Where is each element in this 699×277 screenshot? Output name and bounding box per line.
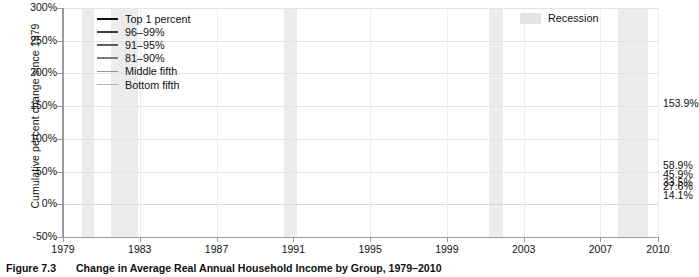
vertical-gridline: [217, 8, 218, 237]
vertical-gridline: [600, 8, 601, 237]
legend-label: 96–99%: [125, 26, 165, 38]
legend-item: 91–95%: [97, 38, 190, 51]
legend-label: Middle fifth: [125, 65, 177, 77]
x-axis-tick-label: 2007: [577, 243, 623, 255]
figure-caption: Figure 7.3 Change in Average Real Annual…: [6, 262, 676, 274]
vertical-gridline: [447, 8, 448, 237]
x-axis-tick: [600, 237, 601, 242]
x-axis-tick: [293, 237, 294, 242]
y-axis-tick-label: -50%: [1, 230, 57, 242]
y-axis-tick-label: 150%: [1, 99, 57, 111]
legend-swatch: [97, 18, 118, 20]
legend-item: 81–90%: [97, 52, 190, 65]
x-axis-tick-label: 2010: [635, 243, 681, 255]
legend-label: Bottom fifth: [125, 79, 180, 91]
legend-swatch: [97, 71, 118, 72]
x-axis-tick-label: 1999: [424, 243, 470, 255]
y-axis-tick-label: 0%: [1, 197, 57, 209]
y-axis-tick-label: 100%: [1, 132, 57, 144]
x-axis-tick: [524, 237, 525, 242]
legend-swatch: [97, 84, 118, 85]
legend-item: Top 1 percent: [97, 12, 190, 25]
y-axis-tick-label: 50%: [1, 165, 57, 177]
legend-item: Bottom fifth: [97, 78, 190, 91]
y-axis-tick-label: 250%: [1, 34, 57, 46]
vertical-gridline: [293, 8, 294, 237]
x-axis-tick: [370, 237, 371, 242]
legend-swatch: [97, 44, 118, 46]
x-axis-tick-label: 1983: [117, 243, 163, 255]
x-axis-tick-label: 1991: [270, 243, 316, 255]
legend-swatch: [97, 57, 118, 59]
x-axis-line: [63, 237, 659, 238]
legend-label: 81–90%: [125, 52, 165, 64]
gridline: [63, 204, 658, 205]
x-axis-tick-label: 1979: [40, 243, 86, 255]
vertical-gridline: [658, 8, 659, 237]
recession-band: [489, 8, 502, 237]
y-axis-tick-label: 300%: [1, 1, 57, 13]
x-axis-tick-label: 1995: [347, 243, 393, 255]
end-value-label: 153.9%: [663, 97, 699, 109]
recession-band: [618, 8, 649, 237]
x-axis-tick: [140, 237, 141, 242]
x-axis-tick-label: 2003: [501, 243, 547, 255]
recession-band: [82, 8, 94, 237]
figure-caption-text: Change in Average Real Annual Household …: [76, 262, 442, 274]
recession-swatch: [520, 13, 541, 24]
legend-label: Top 1 percent: [125, 13, 190, 25]
legend-swatch: [97, 31, 118, 33]
gridline: [63, 172, 658, 173]
vertical-gridline: [524, 8, 525, 237]
x-axis-tick: [63, 237, 64, 242]
x-axis-tick-label: 1987: [194, 243, 240, 255]
legend-item: Middle fifth: [97, 65, 190, 78]
x-axis-tick: [447, 237, 448, 242]
recession-band: [284, 8, 297, 237]
recession-legend-label: Recession: [548, 12, 598, 24]
x-axis-tick: [658, 237, 659, 242]
y-axis-line: [62, 8, 64, 238]
vertical-gridline: [370, 8, 371, 237]
legend-item: 96–99%: [97, 25, 190, 38]
y-axis-tick-label: 200%: [1, 66, 57, 78]
gridline: [63, 106, 658, 107]
gridline: [63, 139, 658, 140]
x-axis-tick: [217, 237, 218, 242]
figure-number: Figure 7.3: [6, 262, 56, 274]
recession-legend: Recession: [520, 12, 598, 24]
gridline: [63, 8, 658, 9]
legend-label: 91–95%: [125, 39, 165, 51]
series-legend: Top 1 percent96–99%91–95%81–90%Middle fi…: [97, 12, 190, 91]
end-value-label: 14.1%: [663, 189, 693, 201]
